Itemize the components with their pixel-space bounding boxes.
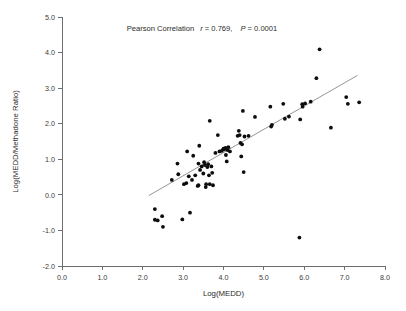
data-point-marker [197,183,201,187]
y-axis-title-text: Log(MEDD/Methadone Ratio) [11,90,20,193]
data-point-marker [226,145,230,149]
data-point-marker [301,105,305,109]
data-point-marker [214,151,218,155]
data-point-marker [224,153,228,157]
x-tick-label: 0.0 [57,273,67,282]
x-tick-label: 4.0 [219,273,229,282]
data-point-marker [193,173,197,177]
data-point-marker [283,117,287,121]
data-point-marker [344,95,348,99]
data-point-marker [200,165,204,169]
data-point-marker [197,162,201,166]
chart-canvas: -2.0-1.00.01.02.03.04.05.00.01.02.03.04.… [0,0,406,311]
regression-trendline [149,75,358,195]
data-point-marker [247,134,251,138]
data-point-marker [270,123,274,127]
data-point-marker [176,172,180,176]
x-tick-label: 5.0 [259,273,269,282]
data-point-marker [298,236,302,240]
data-point-marker [238,133,242,137]
data-point-marker [268,105,272,109]
y-tick-label: -1.0 [43,226,55,235]
y-tick-label: 1.0 [45,155,55,164]
data-point-marker [184,181,188,185]
data-point-marker [188,211,192,215]
data-point-marker [243,135,247,139]
data-point-marker [210,171,214,175]
x-tick-label: 1.0 [97,273,107,282]
pearson-correlation-annotation: Pearson Correlationr= 0.769,P= 0.0001 [127,24,278,33]
trendline-segment [149,75,358,195]
data-point-marker [298,118,302,122]
data-point-marker [201,172,205,176]
data-point-marker [287,115,291,119]
data-point-marker [237,129,241,133]
data-point-marker [180,218,184,222]
data-point-marker [346,102,350,106]
data-point-marker [191,154,195,158]
data-point-marker [153,207,157,211]
data-point-marker [190,178,194,182]
data-point-marker [160,214,164,218]
x-tick-label: 8.0 [380,273,390,282]
data-point-marker [208,182,212,186]
data-point-marker [207,173,211,177]
data-point-marker [176,162,180,166]
data-point-marker [185,150,189,154]
x-tick-label: 3.0 [178,273,188,282]
data-point-marker [242,170,246,174]
data-point-marker [198,168,202,172]
y-tick-label: -2.0 [43,262,55,271]
x-tick-label: 7.0 [340,273,350,282]
data-points [153,47,361,239]
data-point-marker [318,47,322,51]
scatter-plot-figure: -2.0-1.00.01.02.03.04.05.00.01.02.03.04.… [0,0,406,311]
data-point-marker [357,100,361,104]
data-point-marker [170,178,174,182]
data-point-marker [225,160,229,164]
x-axis-title-text: Log(MEDD) [203,289,245,298]
y-tick-label: 0.0 [45,191,55,200]
data-point-marker [204,182,208,186]
data-point-marker [309,100,313,104]
data-point-marker [206,162,210,166]
data-point-marker [216,133,220,137]
data-point-marker [208,119,212,123]
data-point-marker [156,219,160,223]
data-point-marker [197,144,201,148]
y-tick-label: 4.0 [45,48,55,57]
data-point-marker [187,174,191,178]
axes [58,17,385,270]
data-point-marker [161,225,165,229]
data-point-marker [211,183,215,187]
x-tick-label: 6.0 [299,273,309,282]
data-point-marker [314,76,318,80]
y-tick-label: 3.0 [45,84,55,93]
data-point-marker [329,126,333,130]
data-point-marker [281,102,285,106]
axis-labels: -2.0-1.00.01.02.03.04.05.00.01.02.03.04.… [11,13,390,298]
data-point-marker [209,165,213,169]
data-point-marker [253,115,257,119]
x-tick-label: 2.0 [138,273,148,282]
y-tick-label: 2.0 [45,119,55,128]
data-point-marker [228,150,232,154]
data-point-marker [241,109,245,113]
data-point-marker [303,102,307,106]
data-point-marker [239,155,243,159]
data-point-marker [240,142,244,146]
y-tick-label: 5.0 [45,13,55,22]
